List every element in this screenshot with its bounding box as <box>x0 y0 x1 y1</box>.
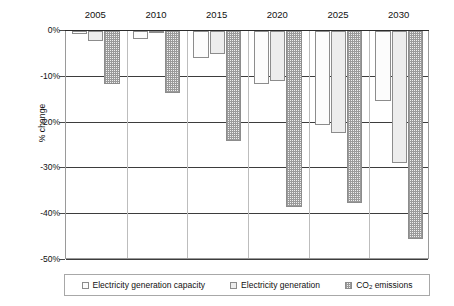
gridline <box>66 259 428 260</box>
x-tick-label: 2005 <box>85 9 106 20</box>
bar <box>375 31 390 101</box>
gridline <box>66 167 428 168</box>
legend-label: Electricity generation capacity <box>93 280 205 290</box>
chart-legend: Electricity generation capacity Electric… <box>64 274 430 296</box>
gridline <box>66 213 428 214</box>
category-separator <box>127 31 128 258</box>
bar <box>315 31 330 125</box>
y-tick-label: 0% <box>18 25 60 35</box>
category-separator <box>248 31 249 258</box>
bar <box>331 31 346 133</box>
bar <box>165 31 180 93</box>
gridline <box>66 76 428 77</box>
legend-label-co2: CO2 emissions <box>356 280 412 290</box>
bar <box>104 31 119 84</box>
plot-area <box>65 30 429 259</box>
y-tick-label: -30% <box>18 162 60 172</box>
x-tick-label: 2020 <box>267 9 288 20</box>
category-separator <box>187 31 188 258</box>
y-tick-label: -20% <box>18 117 60 127</box>
bar <box>392 31 407 163</box>
legend-item-electricity-generation[interactable]: Electricity generation <box>230 280 320 290</box>
bar <box>133 31 148 39</box>
chart-container: % change 0%-10%-20%-30%-40%-50% 20052010… <box>0 0 454 306</box>
category-separator <box>369 31 370 258</box>
bar <box>408 31 423 239</box>
bar <box>270 31 285 81</box>
bar <box>193 31 208 58</box>
legend-swatch-icon <box>82 282 89 289</box>
bar <box>149 31 164 33</box>
legend-swatch-icon <box>230 282 237 289</box>
bar <box>210 31 225 54</box>
legend-swatch-icon <box>345 282 352 289</box>
gridline <box>66 122 428 123</box>
y-tick-label: -10% <box>18 71 60 81</box>
x-tick-label: 2010 <box>145 9 166 20</box>
x-tick-label: 2030 <box>388 9 409 20</box>
zero-baseline <box>65 30 429 31</box>
x-tick-label: 2025 <box>327 9 348 20</box>
bar <box>286 31 301 207</box>
y-tick-mark <box>59 259 65 260</box>
y-tick-label: -50% <box>18 254 60 264</box>
bar <box>347 31 362 203</box>
x-tick-label: 2015 <box>206 9 227 20</box>
bar <box>72 31 87 34</box>
bar <box>226 31 241 141</box>
y-tick-label: -40% <box>18 208 60 218</box>
bar <box>254 31 269 84</box>
bar <box>88 31 103 41</box>
legend-item-co2-emissions[interactable]: CO2 emissions <box>345 280 412 290</box>
legend-item-electricity-generation-capacity[interactable]: Electricity generation capacity <box>82 280 205 290</box>
category-separator <box>309 31 310 258</box>
legend-label: Electricity generation <box>241 280 320 290</box>
